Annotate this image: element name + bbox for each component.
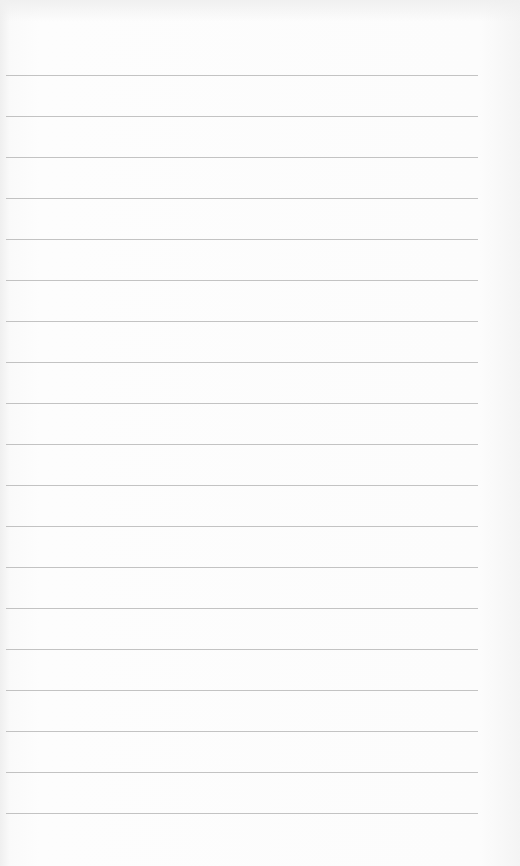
page-top-edge bbox=[0, 0, 520, 22]
ruled-line bbox=[6, 444, 478, 445]
ruled-line bbox=[6, 526, 478, 527]
ruled-line bbox=[6, 567, 478, 568]
ruled-line bbox=[6, 690, 478, 691]
ruled-line bbox=[6, 239, 478, 240]
ruled-line bbox=[6, 772, 478, 773]
ruled-line bbox=[6, 403, 478, 404]
ruled-line bbox=[6, 198, 478, 199]
ruled-line bbox=[6, 75, 478, 76]
ruled-line bbox=[6, 157, 478, 158]
ruled-line bbox=[6, 362, 478, 363]
ruled-line bbox=[6, 485, 478, 486]
ruled-line bbox=[6, 608, 478, 609]
ruled-line bbox=[6, 731, 478, 732]
ruled-line bbox=[6, 116, 478, 117]
ruled-line bbox=[6, 280, 478, 281]
notepad-page bbox=[0, 0, 520, 866]
ruled-line bbox=[6, 649, 478, 650]
ruled-line bbox=[6, 813, 478, 814]
ruled-line bbox=[6, 321, 478, 322]
